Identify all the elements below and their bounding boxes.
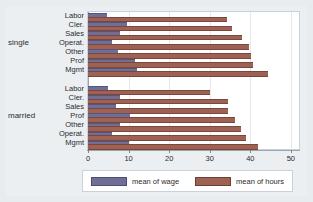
bar-row: [88, 58, 299, 67]
x-ticklabel-0: 0: [86, 154, 90, 163]
category-label-prof: Prof: [70, 57, 84, 65]
bar-row: [88, 21, 299, 30]
category-label-column: LaborCler.SalesOperat.OtherProfMgmtLabor…: [6, 11, 84, 150]
chart-legend: mean of wagemean of hours: [82, 170, 293, 192]
x-ticklabel-10: 10: [124, 154, 132, 163]
x-tickmark-0: [88, 150, 89, 153]
x-ticklabel-40: 40: [246, 154, 254, 163]
category-label-other: Other: [65, 121, 84, 129]
legend-label-wage: mean of wage: [132, 177, 179, 186]
bar-row: [88, 103, 299, 112]
category-label-labor: Labor: [65, 12, 84, 20]
bar-hours: [88, 71, 268, 77]
legend-swatch-hours: [195, 177, 231, 186]
legend-entry-wage: mean of wage: [91, 177, 179, 186]
legend-swatch-wage: [91, 177, 127, 186]
x-tickmark-10: [129, 150, 130, 153]
plot-inner: [88, 12, 299, 149]
category-label-mgmt: Mgmt: [65, 66, 84, 74]
bar-row: [88, 30, 299, 39]
bar-row: [88, 131, 299, 140]
category-label-mgmt: Mgmt: [65, 139, 84, 147]
plot-area: [87, 11, 300, 150]
category-label-operat: Operat.: [59, 39, 84, 47]
chart-figure: singlemarried LaborCler.SalesOperat.Othe…: [0, 0, 313, 202]
x-ticklabel-20: 20: [165, 154, 173, 163]
x-axis: 01020304050: [87, 150, 300, 166]
bar-row: [88, 122, 299, 131]
category-label-other: Other: [65, 48, 84, 56]
bar-row: [88, 12, 299, 21]
bar-row: [88, 67, 299, 76]
bar-row: [88, 112, 299, 121]
x-ticklabel-50: 50: [287, 154, 295, 163]
x-ticklabel-30: 30: [206, 154, 214, 163]
bar-row: [88, 49, 299, 58]
bar-row: [88, 140, 299, 149]
category-label-sales: Sales: [65, 30, 84, 38]
bar-row: [88, 94, 299, 103]
x-tickmark-30: [210, 150, 211, 153]
category-label-labor: Labor: [65, 85, 84, 93]
category-label-cler: Cler.: [69, 21, 84, 29]
bar-row: [88, 39, 299, 48]
legend-label-hours: mean of hours: [236, 177, 284, 186]
bar-row: [88, 85, 299, 94]
category-label-sales: Sales: [65, 103, 84, 111]
category-label-prof: Prof: [70, 112, 84, 120]
figure-canvas: singlemarried LaborCler.SalesOperat.Othe…: [6, 6, 307, 196]
x-tickmark-50: [291, 150, 292, 153]
category-label-cler: Cler.: [69, 94, 84, 102]
category-label-operat: Operat.: [59, 130, 84, 138]
x-tickmark-40: [250, 150, 251, 153]
x-tickmark-20: [169, 150, 170, 153]
legend-entry-hours: mean of hours: [195, 177, 284, 186]
